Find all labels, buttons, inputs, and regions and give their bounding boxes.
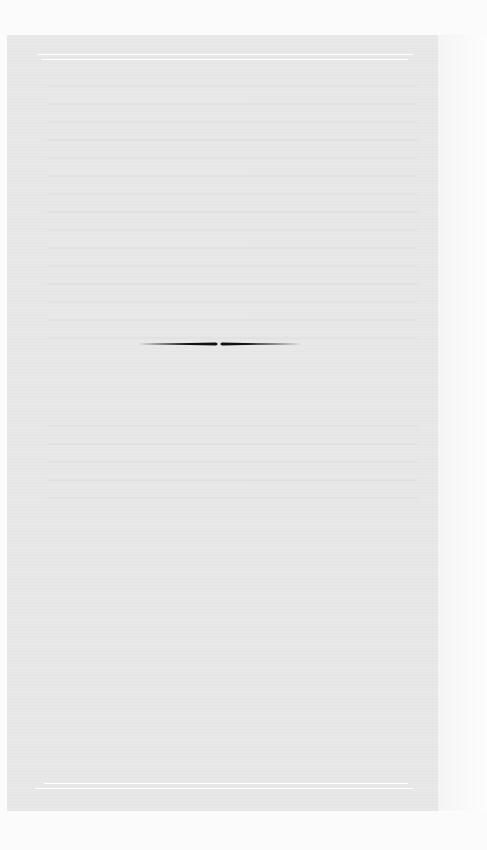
- show-through-line: [47, 229, 417, 231]
- show-through-line: [47, 337, 417, 339]
- show-through-line: [47, 301, 417, 303]
- show-through-line: [47, 283, 417, 285]
- show-through-line: [47, 85, 417, 87]
- bottom-rule-inner: [44, 783, 408, 784]
- show-through-line: [47, 497, 417, 499]
- scanned-page-viewer: [0, 0, 487, 850]
- show-through-line: [47, 247, 417, 249]
- show-through-line: [47, 175, 417, 177]
- tapered-rule-icon: [138, 341, 302, 347]
- show-through-line: [47, 103, 417, 105]
- show-through-line: [47, 443, 417, 445]
- bottom-rule-outer: [35, 788, 413, 789]
- show-through-line: [47, 425, 417, 427]
- book-page: [7, 35, 438, 811]
- show-through-line: [47, 121, 417, 123]
- top-rule-outer: [37, 54, 413, 55]
- show-through-line: [47, 461, 417, 463]
- show-through-line: [47, 193, 417, 195]
- ornamental-divider: [138, 341, 302, 347]
- show-through-line: [47, 479, 417, 481]
- show-through-line: [47, 265, 417, 267]
- show-through-line: [47, 157, 417, 159]
- show-through-line: [47, 319, 417, 321]
- page-edge-shadow: [438, 35, 487, 811]
- top-rule-inner: [42, 59, 408, 60]
- show-through-line: [47, 211, 417, 213]
- show-through-line: [47, 139, 417, 141]
